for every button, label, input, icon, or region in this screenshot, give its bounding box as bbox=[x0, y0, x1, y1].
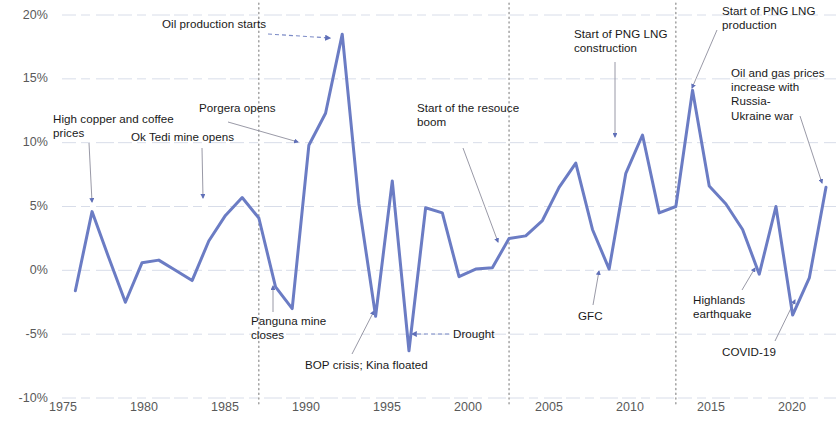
arrow-russia-ukraine bbox=[800, 116, 822, 183]
x-axis-tick-label: 2005 bbox=[519, 400, 579, 414]
arrow-oil-production-starts bbox=[268, 34, 330, 38]
x-axis-tick-label: 2020 bbox=[762, 400, 822, 414]
x-axis-tick-label: 1990 bbox=[276, 400, 336, 414]
x-axis-tick-label: 1980 bbox=[114, 400, 174, 414]
arrow-bop-crisis bbox=[352, 311, 374, 354]
x-axis-tick-label: 2015 bbox=[681, 400, 741, 414]
annotation-resource-boom: Start of the resouce boom bbox=[417, 101, 547, 129]
annotation-highlands-earthquake: Highlands earthquake bbox=[693, 293, 773, 321]
arrow-ok-tedi bbox=[202, 148, 203, 198]
annotation-gfc: GFC bbox=[578, 309, 618, 323]
y-axis-tick-label: 15% bbox=[2, 71, 48, 85]
x-axis-tick-label: 1975 bbox=[33, 400, 93, 414]
chart-root: 20%15%10%5%0%-5%-10% 1975198019851990199… bbox=[0, 0, 839, 422]
annotation-png-lng-production: Start of PNG LNG production bbox=[722, 4, 834, 32]
annotation-ok-tedi: Ok Tedi mine opens bbox=[131, 130, 251, 144]
event-vertical-lines bbox=[259, 3, 676, 404]
y-axis-tick-label: 20% bbox=[2, 8, 48, 22]
annotation-png-lng-construction: Start of PNG LNG construction bbox=[574, 27, 689, 55]
y-axis-tick-label: 0% bbox=[2, 263, 48, 277]
arrow-png-lng-production bbox=[692, 30, 717, 88]
x-axis-tick-label: 2000 bbox=[438, 400, 498, 414]
annotation-oil-production-starts: Oil production starts bbox=[162, 17, 302, 31]
y-axis-tick-label: 5% bbox=[2, 199, 48, 213]
annotation-bop-crisis: BOP crisis; Kina floated bbox=[305, 358, 455, 372]
gridlines bbox=[62, 15, 836, 398]
annotation-drought: Drought bbox=[453, 327, 513, 341]
annotation-panguna-closes: Panguna mine closes bbox=[251, 314, 343, 342]
x-axis-tick-label: 2010 bbox=[600, 400, 660, 414]
y-axis-tick-label: -5% bbox=[2, 327, 48, 341]
annotation-porgera-opens: Porgera opens bbox=[199, 101, 299, 115]
x-axis-tick-label: 1995 bbox=[357, 400, 417, 414]
arrow-gfc bbox=[593, 271, 599, 305]
arrow-high-copper-coffee bbox=[89, 143, 92, 202]
arrow-highlands-earthquake bbox=[742, 268, 755, 290]
y-axis-tick-label: 10% bbox=[2, 135, 48, 149]
annotation-russia-ukraine: Oil and gas prices increase with Russia-… bbox=[731, 66, 837, 123]
x-axis-tick-label: 1985 bbox=[195, 400, 255, 414]
annotation-covid-19: COVID-19 bbox=[722, 345, 792, 359]
arrow-resource-boom bbox=[463, 148, 498, 242]
